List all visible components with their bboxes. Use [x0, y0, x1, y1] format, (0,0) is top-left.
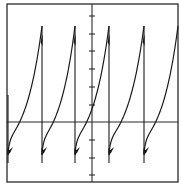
trace-drop-edges: [8, 26, 144, 163]
waveform-trace: [8, 26, 178, 155]
oscilloscope-plot: [0, 0, 181, 188]
